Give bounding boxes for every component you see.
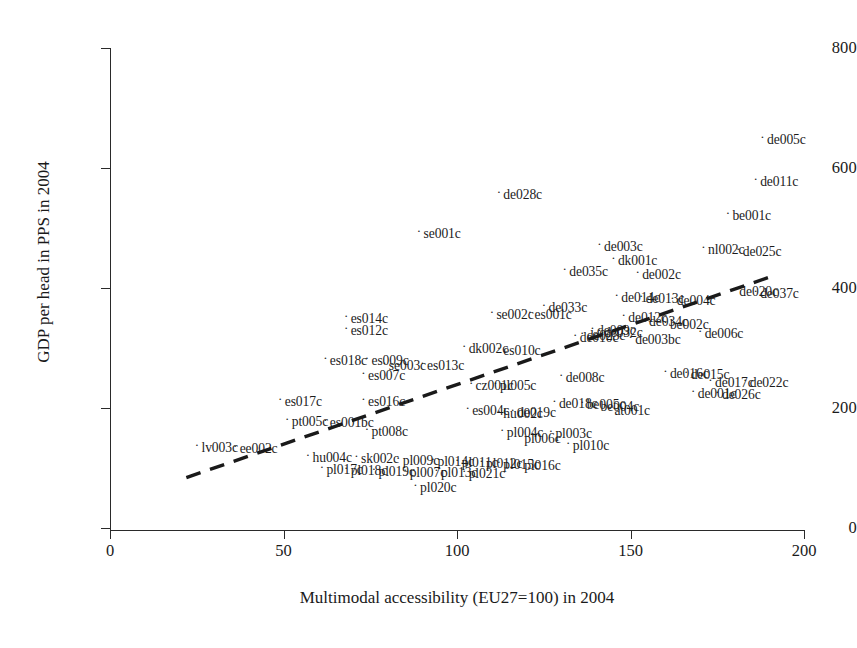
trend-line bbox=[0, 0, 857, 648]
scatter-plot-figure: 0200400600800 050100150200 GDP per head … bbox=[0, 0, 857, 648]
